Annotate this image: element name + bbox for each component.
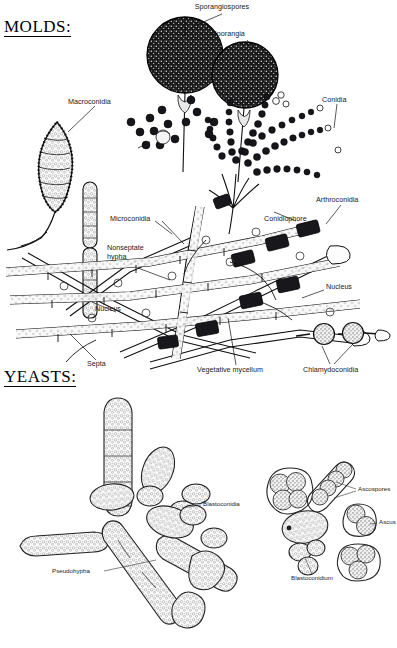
ascus-linear — [307, 462, 354, 512]
chlamydoconidia-pair — [296, 323, 390, 345]
ascus-pair — [343, 504, 376, 536]
label-septa: Septa — [87, 360, 106, 367]
label-sporangia: Sporangia — [212, 30, 245, 37]
label-sporangiospores: Sporangiospores — [195, 3, 249, 10]
label-nucleus-left: Nucleus — [95, 305, 121, 312]
label-blastoconidia: Blastoconidia — [203, 501, 240, 507]
label-chlamydoconidia: Chlamydoconidia — [303, 366, 358, 373]
label-vegetative-mycelium: Vegetative mycelium — [197, 366, 263, 373]
sporangiospores-scatter — [127, 96, 218, 149]
label-conidia: Conidia — [322, 96, 346, 103]
label-conidiophore: Conidiophore — [264, 215, 307, 222]
section-heading-yeasts: YEASTS: — [4, 368, 76, 387]
hyphal-network — [6, 194, 370, 369]
label-macroconidia: Macroconidia — [68, 98, 111, 105]
label-ascus: Ascus — [379, 519, 396, 525]
ascus-cluster-a — [267, 468, 313, 514]
conidiophore-chains — [205, 92, 341, 234]
label-blastoconidium: Blastoconidium — [291, 575, 333, 581]
ascus-triad — [337, 544, 380, 581]
label-nucleus-right: Nucleus — [326, 283, 352, 290]
label-pseudohypha: Pseudohypha — [52, 568, 90, 574]
fungal-morphology-figure: MOLDS: YEASTS: Sporangiospores Sporangia… — [0, 0, 397, 648]
label-nonseptate-hypha: Nonseptate hypha — [107, 243, 153, 261]
macroconidium — [7, 122, 72, 250]
label-microconidia: Microconidia — [110, 215, 150, 222]
section-heading-molds: MOLDS: — [4, 18, 71, 37]
label-arthroconidia: Arthroconidia — [316, 196, 358, 203]
blastoconidium-cell — [280, 507, 331, 575]
label-ascospores: Ascospores — [358, 486, 390, 492]
